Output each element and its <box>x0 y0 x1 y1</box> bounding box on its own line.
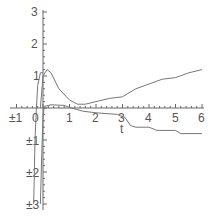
curves <box>34 70 202 204</box>
y-tick-label: 3 <box>31 5 38 19</box>
y-tick-label: ±3 <box>26 198 40 212</box>
x-tick-label: 4 <box>145 111 152 125</box>
y-tick-label: ±1 <box>26 134 40 148</box>
y-tick-label: ±2 <box>26 166 40 180</box>
y-tick-label: 2 <box>31 37 38 51</box>
x-tick-label: ±1 <box>9 111 23 125</box>
series-line-curve-1 <box>40 70 202 108</box>
x-tick-label: 5 <box>172 111 179 125</box>
line-chart: ±1 0 1 2 3 4 5 6 t 3 2 1 ±1 ±2 ±3 <box>0 0 214 221</box>
x-tick-label: 6 <box>198 111 205 125</box>
axes <box>10 10 204 210</box>
x-tick-labels: ±1 0 1 2 3 4 5 6 t <box>9 111 205 136</box>
x-tick-label: 1 <box>66 111 73 125</box>
